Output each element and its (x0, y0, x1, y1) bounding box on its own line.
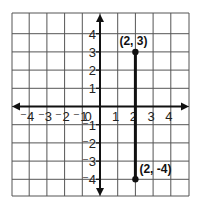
x-tick-label: 1 (112, 109, 119, 124)
data-point (132, 176, 138, 182)
y-tick-label: ⁻2 (82, 136, 96, 151)
y-axis-down-arrow-icon (96, 188, 104, 196)
x-tick-label: 3 (147, 109, 154, 124)
data-point (132, 49, 138, 55)
x-tick-label: ⁻2 (55, 109, 69, 124)
y-tick-label: 4 (89, 27, 96, 42)
y-axis-up-arrow-icon (96, 14, 104, 22)
x-tick-label: ⁻3 (38, 109, 52, 124)
y-tick-label: 2 (89, 63, 96, 78)
x-axis-right-arrow-icon (181, 103, 189, 111)
line-segment: (2, 3)(2, -4) (119, 34, 171, 183)
x-tick-label: 4 (165, 109, 172, 124)
y-tick-label: ⁻3 (82, 154, 96, 169)
y-tick-label: 3 (89, 45, 96, 60)
point-label: (2, 3) (119, 34, 147, 48)
y-tick-label: ⁻1 (82, 118, 96, 133)
y-tick-label: 1 (89, 81, 96, 96)
point-label: (2, -4) (139, 162, 171, 176)
x-axis-left-arrow-icon (12, 103, 20, 111)
coordinate-plane: ⁻4⁻3⁻2⁻1012344321⁻1⁻2⁻3⁻4 (2, 3)(2, -4) (0, 0, 198, 209)
y-tick-label: ⁻4 (82, 172, 96, 187)
x-tick-label: ⁻4 (20, 109, 34, 124)
